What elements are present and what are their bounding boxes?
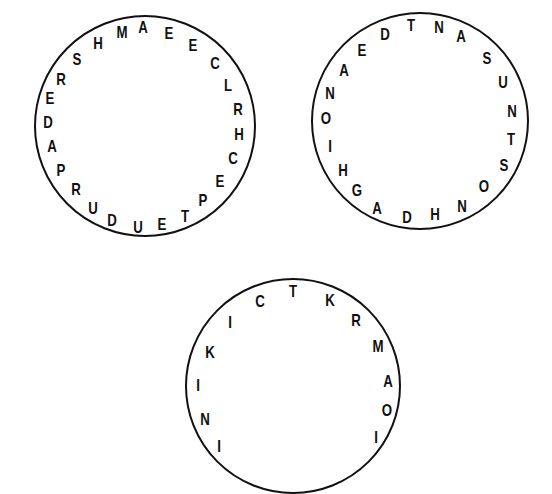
- circle-2-letter: A: [339, 62, 349, 79]
- circle-1-letter: P: [57, 162, 66, 179]
- circle-2-letter: S: [483, 50, 492, 67]
- circle-3-letter: N: [200, 411, 210, 428]
- circle-3-outline: [185, 278, 401, 494]
- circle-2-letter: D: [380, 26, 390, 43]
- circle-2-letter: I: [328, 138, 332, 155]
- circle-3-letter: I: [196, 377, 200, 394]
- circle-1-letter: U: [133, 219, 143, 236]
- circle-3-letter: I: [217, 438, 221, 455]
- circle-3-letter: K: [205, 344, 215, 361]
- circle-1-letter: D: [43, 114, 53, 131]
- circle-2-letter: A: [372, 200, 382, 217]
- circle-2-letter: O: [321, 110, 331, 127]
- circle-2-letter: H: [338, 162, 348, 179]
- circle-3-letter: O: [382, 402, 392, 419]
- circle-1-letter: E: [158, 216, 167, 233]
- circle-1-letter: R: [56, 71, 66, 88]
- circle-3-letter: M: [372, 338, 383, 355]
- circle-1-letter: D: [107, 212, 117, 229]
- circle-1-letter: R: [233, 101, 243, 118]
- circle-1-letter: C: [210, 55, 220, 72]
- circle-1-letter: E: [165, 25, 174, 42]
- circle-1-letter: E: [46, 90, 55, 107]
- circle-1-letter: A: [47, 138, 57, 155]
- circle-3-letter: I: [228, 314, 232, 331]
- circle-1-letter: M: [116, 24, 127, 41]
- circle-2-letter: N: [507, 103, 517, 120]
- circle-3-letter: K: [325, 292, 335, 309]
- circle-1-letter: A: [138, 19, 148, 36]
- circle-1-letter: T: [181, 208, 189, 225]
- circle-2-letter: G: [352, 182, 362, 199]
- circle-1-letter: C: [228, 150, 238, 167]
- circle-1-letter: E: [189, 37, 198, 54]
- circle-2-letter: S: [500, 157, 509, 174]
- circle-3-letter: A: [383, 373, 393, 390]
- circle-2-letter: N: [325, 85, 335, 102]
- circle-1-letter: P: [199, 192, 208, 209]
- circle-2-outline: [311, 12, 529, 230]
- circle-2-letter: N: [457, 198, 467, 215]
- circle-2-letter: A: [456, 28, 466, 45]
- circle-2-letter: H: [430, 206, 440, 223]
- circle-1-letter: E: [216, 173, 225, 190]
- circle-1-letter: H: [93, 35, 103, 52]
- circle-2-letter: T: [507, 131, 515, 148]
- circle-3-letter: I: [374, 429, 378, 446]
- circle-3-letter: R: [351, 312, 361, 329]
- circle-2-letter: E: [358, 42, 367, 59]
- circle-2-letter: U: [498, 74, 508, 91]
- circle-3-letter: C: [255, 293, 265, 310]
- circle-2-letter: T: [407, 17, 415, 34]
- circle-1-letter: S: [73, 51, 82, 68]
- circle-1-letter: L: [224, 77, 232, 94]
- circle-1-letter: R: [71, 181, 81, 198]
- circle-2-letter: N: [434, 19, 444, 36]
- circle-1-letter: U: [88, 200, 98, 217]
- circle-2-letter: O: [479, 178, 489, 195]
- circle-1-letter: H: [234, 126, 244, 143]
- circle-1-outline: [34, 15, 256, 237]
- circle-3-letter: T: [289, 283, 297, 300]
- circle-2-letter: D: [402, 209, 412, 226]
